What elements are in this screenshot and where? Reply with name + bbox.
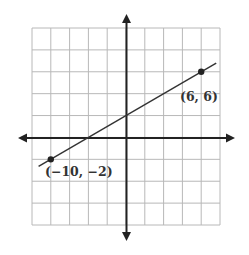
y-axis-up-arrow-icon bbox=[122, 14, 131, 23]
x-axis-right-arrow-icon bbox=[226, 134, 235, 143]
y-axis-down-arrow-icon bbox=[122, 232, 131, 241]
x-axis-left-arrow-icon bbox=[18, 134, 27, 143]
point-label-6-6: (6, 6) bbox=[180, 89, 218, 104]
coordinate-plane: (6, 6) (−10, −2) bbox=[0, 0, 249, 255]
point-label-neg10-neg2: (−10, −2) bbox=[45, 164, 113, 179]
data-point bbox=[48, 156, 54, 162]
data-point bbox=[198, 69, 204, 75]
